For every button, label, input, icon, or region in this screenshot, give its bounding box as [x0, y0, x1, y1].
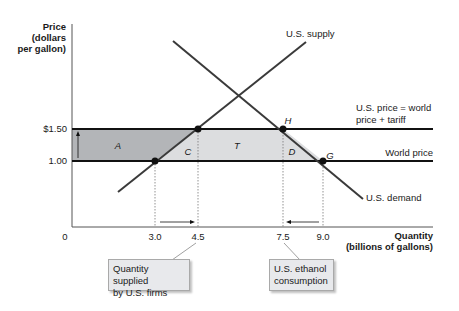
origin-label: 0	[62, 231, 67, 242]
demand-decrease-arrow-head	[286, 220, 291, 224]
y-axis-label-3: per gallon)	[17, 43, 66, 54]
y-tick-100: 1.00	[49, 155, 68, 166]
x-axis-label-1: Quantity	[394, 230, 433, 241]
point-h	[280, 126, 287, 133]
callout-consumption-line2: consumption	[274, 275, 329, 287]
area-a-label: A	[114, 140, 121, 151]
supply-increase-arrow-head	[190, 220, 195, 224]
tariff-line-label-2: price + tariff	[356, 114, 406, 125]
y-axis-label-2: (dollars	[32, 32, 66, 43]
callout-connector-consumption	[284, 243, 300, 260]
demand-curve	[173, 41, 363, 199]
y-axis-label-1: Price	[43, 21, 66, 32]
callout-ethanol-consumption: U.S. ethanol consumption	[269, 259, 334, 291]
point-h-label: H	[285, 115, 292, 126]
x-tick-7-5: 7.5	[276, 231, 289, 242]
world-price-label: World price	[385, 147, 433, 158]
area-d-label: D	[289, 146, 296, 157]
x-axis-label-2: (billions of gallons)	[346, 241, 433, 252]
point-supply-world	[152, 158, 159, 165]
x-tick-9-0: 9.0	[316, 231, 329, 242]
demand-label: U.S. demand	[366, 192, 421, 203]
area-c-label: C	[185, 146, 192, 157]
tariff-line-label-1: U.S. price = world	[356, 102, 431, 113]
supply-label: U.S. supply	[286, 28, 335, 39]
y-tick-150: $1.50	[43, 123, 67, 134]
callout-quantity-supplied: Quantity supplied by U.S. firms	[108, 259, 190, 291]
point-g-label: G	[326, 150, 333, 161]
callout-supplied-line1: Quantity supplied	[113, 263, 185, 287]
x-tick-3-0: 3.0	[148, 231, 161, 242]
callout-connector-supplied	[172, 243, 196, 260]
area-t	[198, 129, 283, 161]
supply-curve	[118, 42, 306, 192]
tariff-diagram: Price (dollars per gallon) $1.50 1.00 0 …	[0, 0, 459, 311]
callout-supplied-line2: by U.S. firms	[113, 287, 185, 299]
x-tick-4-5: 4.5	[191, 231, 204, 242]
callout-consumption-line1: U.S. ethanol	[274, 263, 329, 275]
point-supply-tariff	[195, 126, 202, 133]
